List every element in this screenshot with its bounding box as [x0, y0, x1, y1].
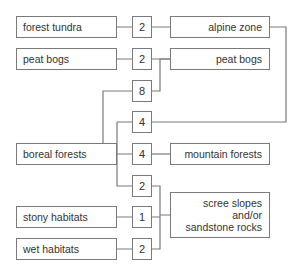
node-mountain-forests: mountain forests [170, 143, 270, 165]
node-label: mountain forests [184, 148, 262, 160]
node-alpine-zone: alpine zone [170, 16, 270, 38]
node-label: forest tundra [23, 21, 82, 33]
node-stony-habitats: stony habitats [16, 206, 117, 228]
count-value: 2 [139, 53, 145, 65]
count-peat-bogs: 2 [132, 48, 152, 70]
node-label: peat bogs [216, 53, 262, 65]
count-boreal-mountain: 4 [132, 143, 152, 165]
count-forest-tundra-alpine: 2 [132, 16, 152, 38]
node-scree-sandstone: scree slopes and/or sandstone rocks [170, 192, 270, 238]
node-peat-bogs-source: peat bogs [16, 48, 117, 70]
node-peat-bogs-target: peat bogs [170, 48, 270, 70]
count-value: 2 [139, 180, 145, 192]
count-value: 4 [139, 116, 145, 128]
node-label: boreal forests [23, 148, 87, 160]
count-value: 4 [139, 148, 145, 160]
count-value: 8 [139, 85, 145, 97]
count-stony-scree: 1 [132, 206, 152, 228]
count-wet-scree: 2 [132, 238, 152, 260]
node-forest-tundra: forest tundra [16, 16, 117, 38]
count-value: 1 [139, 211, 145, 223]
count-boreal-scree: 2 [132, 175, 152, 197]
count-boreal-peat-bogs: 8 [132, 80, 152, 102]
node-label-line: sandstone rocks [186, 221, 262, 233]
node-label: peat bogs [23, 53, 69, 65]
node-label: stony habitats [23, 211, 88, 223]
node-label-line: scree slopes [203, 197, 262, 209]
count-value: 2 [139, 21, 145, 33]
node-label: wet habitats [23, 243, 79, 255]
count-boreal-alpine: 4 [132, 111, 152, 133]
node-label-line: and/or [232, 209, 262, 221]
node-wet-habitats: wet habitats [16, 238, 117, 260]
count-value: 2 [139, 243, 145, 255]
node-label: alpine zone [208, 21, 262, 33]
node-boreal-forests: boreal forests [16, 143, 117, 165]
